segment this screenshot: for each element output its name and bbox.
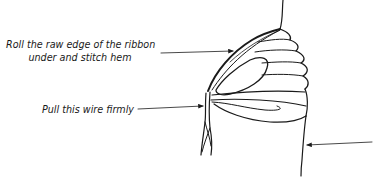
arrow-pull-wire bbox=[138, 106, 203, 109]
rolled-edge bbox=[208, 29, 280, 91]
base-fold-4 bbox=[214, 104, 306, 122]
arrow-roll-edge bbox=[161, 51, 233, 53]
ribbon-tail bbox=[301, 116, 306, 176]
arrow-ribbon-tail bbox=[307, 142, 372, 145]
base-right-edge bbox=[305, 89, 307, 116]
ribbon-top-strand bbox=[280, 0, 283, 29]
ribbon-rose-drawing bbox=[0, 0, 373, 184]
petal-fold bbox=[280, 29, 308, 89]
base-fold-2 bbox=[211, 99, 306, 106]
